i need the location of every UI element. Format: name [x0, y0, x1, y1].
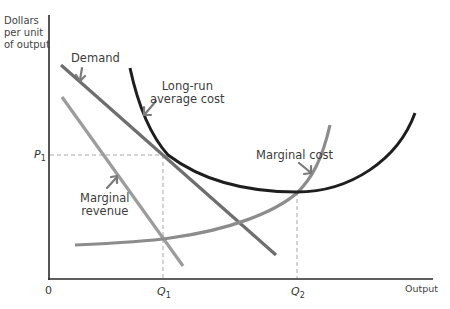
mr-arrow-icon: [107, 176, 117, 188]
lrac-label: Long-run average cost: [150, 80, 225, 106]
marginal-cost-curve: [75, 125, 330, 245]
lrac-label-line-2: average cost: [150, 93, 225, 106]
q1-tick-label: Q1: [157, 285, 171, 300]
p1-subscript: 1: [41, 154, 46, 163]
q2-tick-label: Q2: [291, 285, 305, 300]
diagram-canvas: [0, 0, 450, 309]
origin-label: 0: [45, 284, 52, 297]
q1-letter: Q: [157, 285, 166, 298]
x-axis-label: Output: [405, 283, 438, 294]
mc-arrow-icon: [299, 163, 311, 174]
y-axis-label-line-2: per unit: [4, 27, 50, 39]
y-axis-label-line-1: Dollars: [4, 15, 50, 27]
cost-revenue-diagram: Dollars per unit of output Demand Long-r…: [0, 0, 450, 309]
q1-subscript: 1: [166, 291, 171, 300]
marginal-revenue-curve: [62, 97, 183, 266]
demand-label: Demand: [71, 52, 120, 65]
mr-label-line-2: revenue: [80, 205, 130, 218]
y-axis-label-line-3: of output: [4, 39, 50, 51]
q2-subscript: 2: [300, 291, 305, 300]
y-axis-label: Dollars per unit of output: [4, 15, 50, 51]
p1-tick-label: P1: [34, 148, 46, 163]
q2-letter: Q: [291, 285, 300, 298]
mr-label: Marginal revenue: [80, 192, 130, 218]
p1-letter: P: [34, 148, 41, 161]
mc-label: Marginal cost: [256, 149, 333, 162]
